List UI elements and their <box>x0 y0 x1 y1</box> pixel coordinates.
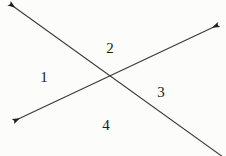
angle-diagram-figure: 1 2 3 4 <box>0 0 226 156</box>
angle-label-4: 4 <box>102 118 110 133</box>
angle-label-2: 2 <box>106 41 114 56</box>
angle-label-1: 1 <box>40 70 48 85</box>
angle-label-3: 3 <box>157 85 165 100</box>
diagram-canvas <box>0 0 226 156</box>
